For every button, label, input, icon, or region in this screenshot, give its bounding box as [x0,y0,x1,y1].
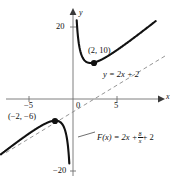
x-axis-arrowhead [158,96,165,103]
curve-left-branch [1,121,69,164]
tick-label-y-bottom: −20 [53,166,66,175]
tick-label-y-top: 20 [56,22,65,31]
function-label-tail: + 2 [143,132,154,142]
y-axis-arrowhead [70,8,77,15]
point-marker-maximum [52,118,58,124]
function-label-head: F(x) = 2x + [97,132,138,142]
callout-leader-line [78,132,95,137]
axis-label-x: x [166,93,170,101]
asymptote-label-text: y = 2x + 2 [103,69,139,79]
curve-right-branch [77,20,156,63]
tick-label-x-neg: −5 [24,101,33,110]
asymptote-label: y = 2x + 2 [103,70,139,79]
plot-svg [0,0,178,182]
tick-label-x-zero: 0 [76,101,80,110]
axis-label-y: y [79,9,83,17]
point-label-minimum: (2, 10) [88,46,111,55]
function-label: F(x) = 2x +8x+ 2 [97,131,154,144]
point-marker-minimum [91,60,97,66]
tick-label-x-pos: 5 [114,101,118,110]
point-label-maximum: (−2, −6) [8,112,36,121]
figure-canvas: y x 20 −20 −5 0 5 (2, 10) (−2, −6) y = 2… [0,0,178,182]
